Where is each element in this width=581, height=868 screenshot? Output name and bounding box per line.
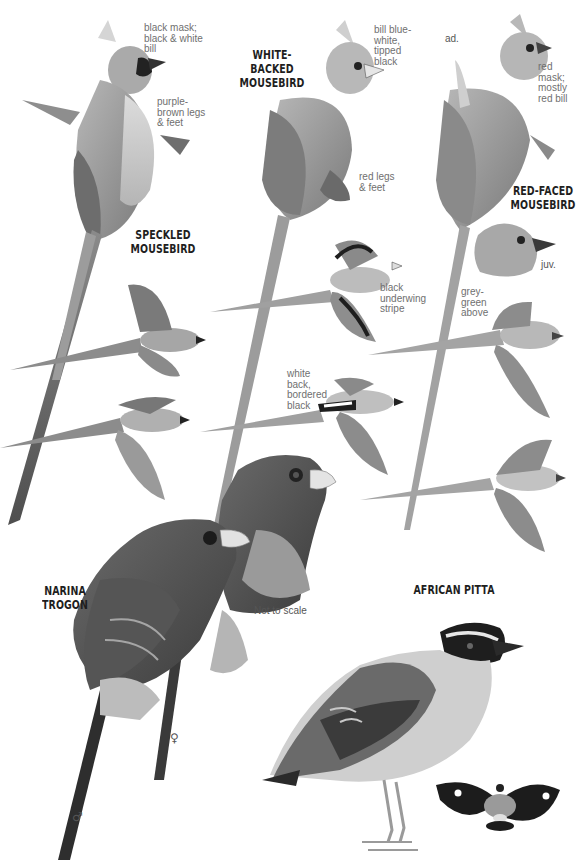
narina-trogon-male: [58, 519, 250, 860]
label-adult: ad.: [445, 33, 459, 44]
african-pitta: [262, 623, 524, 850]
label-juvenile: juv.: [541, 259, 556, 270]
speckled-mousebird-flying-1: [10, 285, 206, 377]
title-speckled-mousebird: SPECKLED MOUSEBIRD: [126, 228, 200, 256]
annotation-red-faced-upperparts: grey- green above: [461, 287, 488, 319]
white-backed-mousebird-flying-1: [210, 240, 402, 342]
annotation-white-backed-underwing: black underwing stripe: [380, 283, 426, 315]
title-red-faced-mousebird: RED-FACED MOUSEBIRD: [506, 184, 580, 212]
field-guide-plate: SPECKLED MOUSEBIRD WHITE-BACKED MOUSEBIR…: [0, 0, 581, 868]
african-pitta-flying: [436, 782, 560, 831]
annotation-speckled-mask: black mask; black & white bill: [144, 23, 203, 55]
label-male: ♂: [72, 810, 83, 824]
annotation-red-faced-mask: red mask; mostly red bill: [538, 62, 581, 104]
title-african-pitta: AFRICAN PITTA: [413, 583, 495, 597]
title-narina-trogon: NARINA TROGON: [36, 584, 93, 612]
not-to-scale-note: Not to scale: [254, 605, 307, 616]
bird-illustrations: [0, 0, 581, 868]
red-faced-mousebird-flying-2: [360, 440, 566, 552]
annotation-white-backed-back: white back, bordered black: [287, 369, 327, 411]
title-white-backed-mousebird: WHITE-BACKED MOUSEBIRD: [231, 48, 313, 90]
annotation-white-backed-bill: bill blue- white, tipped black: [374, 25, 411, 67]
annotation-white-backed-legs: red legs & feet: [359, 172, 395, 193]
annotation-speckled-legs: purple- brown legs & feet: [157, 97, 205, 129]
label-female: ♀: [170, 731, 179, 745]
